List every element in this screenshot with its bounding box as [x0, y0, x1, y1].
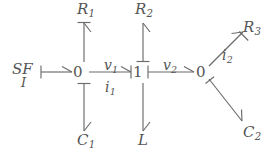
element-sub-r3: 3 [255, 26, 261, 37]
element-base-r3: R [243, 18, 254, 36]
element-sub-r2: 2 [147, 8, 153, 19]
arrowhead-junction1-to-l [143, 122, 150, 131]
element-label-r3: R3 [243, 20, 261, 35]
arrowhead-sf-to-junction0a [62, 67, 72, 73]
bond-label-v2: v2 [163, 58, 177, 72]
element-base-c2: C [243, 123, 254, 141]
element-sub-r1: 1 [89, 8, 95, 19]
arrowhead-junction0a-to-c1 [84, 122, 91, 131]
bond-base-v2: v [163, 57, 171, 73]
bond-graph-figure: 0 1 0 SF I R1 R2 R3 C1 C2 L v1 i1 v2 i2 [0, 0, 278, 154]
bond-label-i2: i2 [222, 48, 233, 62]
source-flow-subscript: I [21, 76, 26, 89]
element-label-c2: C2 [243, 125, 261, 140]
element-base-r1: R [77, 0, 88, 18]
bond-base-i2: i [222, 47, 226, 63]
arrowhead-junction0a-to-junction1 [121, 67, 131, 73]
bond-junction0b-to-c2 [209, 79, 242, 121]
bond-sub-i2: 2 [227, 54, 233, 65]
arrowhead-junction1-to-r2 [143, 23, 150, 32]
causality-stroke-c2 [206, 77, 215, 84]
element-label-r1: R1 [77, 2, 95, 17]
element-base-c1: C [77, 131, 88, 149]
bond-sub-i1: 1 [110, 86, 116, 97]
element-sub-c2: 2 [255, 131, 261, 142]
element-label-c1: C1 [77, 133, 95, 148]
bond-sub-v2: 2 [171, 64, 177, 75]
junction-1-middle: 1 [133, 65, 143, 80]
bond-label-v1: v1 [104, 58, 118, 72]
bond-label-i1: i1 [105, 80, 116, 94]
arrowhead-junction0a-to-r1 [84, 23, 91, 32]
arrowhead-junction0b-to-c2 [242, 110, 243, 122]
bond-base-v1: v [104, 57, 112, 73]
element-label-l: L [138, 133, 148, 148]
bond-base-i1: i [105, 79, 109, 95]
junction-0-right: 0 [196, 65, 206, 80]
element-label-r2: R2 [135, 2, 153, 17]
element-base-r2: R [135, 0, 146, 18]
arrowhead-junction1-to-junction0b [184, 67, 194, 73]
junction-0-left: 0 [73, 65, 83, 80]
element-base-l: L [138, 131, 148, 149]
element-sub-c1: 1 [89, 139, 95, 150]
bond-sub-v1: 1 [112, 64, 118, 75]
